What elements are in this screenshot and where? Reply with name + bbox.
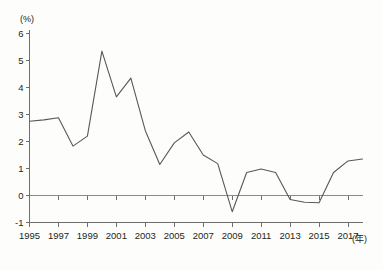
x-tick-label: 1995 <box>19 230 40 241</box>
y-axis <box>26 30 30 223</box>
x-axis-unit-label: (年) <box>352 233 367 244</box>
y-axis-unit-label: (%) <box>20 14 34 24</box>
x-tick-label: 2005 <box>164 230 185 241</box>
x-tick-label: 1997 <box>48 230 69 241</box>
x-tick-label: 1999 <box>77 230 98 241</box>
x-tick-label: 2003 <box>135 230 156 241</box>
y-tick-label: 5 <box>18 55 23 66</box>
x-tick-label: 2007 <box>193 230 214 241</box>
y-tick-label: 3 <box>18 109 23 120</box>
x-tick-label: 2015 <box>308 230 329 241</box>
y-tick-label: -1 <box>15 217 23 228</box>
chart-canvas: -10123456 199519971999200120032005200720… <box>0 0 383 270</box>
y-tick-label: 1 <box>18 163 23 174</box>
y-tick-label: 2 <box>18 136 23 147</box>
x-tick-label: 2001 <box>106 230 127 241</box>
x-tick-label: 2009 <box>222 230 243 241</box>
x-tick-label: 2011 <box>251 230 271 241</box>
x-axis <box>30 223 363 227</box>
series-polyline <box>30 51 363 212</box>
line-chart-figure: -10123456 199519971999200120032005200720… <box>0 0 383 270</box>
y-tick-label: 4 <box>18 82 23 93</box>
x-tick-label: 2013 <box>280 230 301 241</box>
data-series <box>30 51 363 212</box>
zero-reference-line <box>30 196 363 200</box>
y-tick-label: 0 <box>18 190 23 201</box>
x-tick-labels: 1995199719992001200320052007200920112013… <box>19 230 359 241</box>
y-tick-label: 6 <box>18 28 23 39</box>
y-tick-labels: -10123456 <box>15 28 23 228</box>
